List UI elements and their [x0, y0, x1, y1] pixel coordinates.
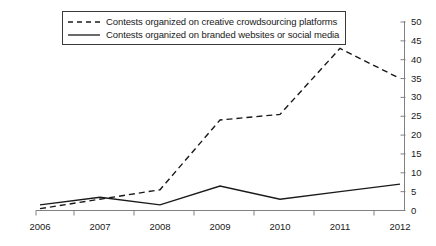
- legend-item-branded: Contests organized on branded websites o…: [67, 28, 339, 41]
- y-axis-tick-label: 25: [411, 110, 433, 121]
- y-axis-tick-label: 40: [411, 54, 433, 65]
- y-axis-tick-label: 5: [411, 186, 433, 197]
- x-axis-ticks: [36, 211, 374, 216]
- line-chart: Contests organized on creative crowdsour…: [0, 0, 436, 246]
- axis-group: [36, 21, 405, 211]
- y-axis-tick-label: 10: [411, 167, 433, 178]
- series-line-branded: [40, 184, 400, 205]
- y-axis-tick-label: 15: [411, 148, 433, 159]
- x-axis-tick-label: 2008: [140, 221, 180, 232]
- y-axis-tick-label: 35: [411, 73, 433, 84]
- y-axis-tick-label: 20: [411, 129, 433, 140]
- x-axis-tick-label: 2009: [200, 221, 240, 232]
- x-axis-tick-label: 2011: [320, 221, 360, 232]
- dashed-line-sample: [67, 17, 101, 27]
- series-line-crowdsourcing: [40, 48, 400, 208]
- y-axis-tick-label: 45: [411, 35, 433, 46]
- chart-legend: Contests organized on creative crowdsour…: [62, 11, 346, 45]
- x-axis-tick-label: 2012: [380, 221, 420, 232]
- legend-label-branded: Contests organized on branded websites o…: [106, 29, 339, 40]
- x-axis-tick-label: 2006: [20, 221, 60, 232]
- solid-line-sample: [67, 30, 101, 40]
- legend-label-crowdsourcing: Contests organized on creative crowdsour…: [106, 16, 337, 27]
- x-axis-tick-label: 2007: [80, 221, 120, 232]
- legend-item-crowdsourcing: Contests organized on creative crowdsour…: [67, 15, 339, 28]
- y-axis-tick-label: 0: [411, 205, 433, 216]
- y-axis-tick-label: 50: [411, 16, 433, 27]
- y-axis-tick-label: 30: [411, 91, 433, 102]
- data-series-group: [40, 48, 400, 208]
- x-axis-tick-label: 2010: [260, 221, 300, 232]
